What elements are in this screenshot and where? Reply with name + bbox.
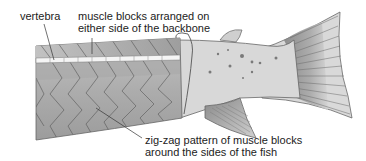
muscle-body <box>34 38 182 140</box>
label-muscle-blocks-line2: either side of the backbone <box>78 22 210 34</box>
label-muscle-blocks: muscle blocks arranged on either side of… <box>78 10 210 34</box>
label-zigzag-line2: around the sides of the fish <box>145 146 302 158</box>
label-vertebra: vertebra <box>20 10 60 22</box>
label-muscle-blocks-line1: muscle blocks arranged on <box>78 10 210 22</box>
label-zigzag-pattern: zig-zag pattern of muscle blocks around … <box>145 134 302 158</box>
dorsal-fin <box>220 30 242 42</box>
fish-diagram: vertebra muscle blocks arranged on eithe… <box>0 0 366 161</box>
label-vertebra-text: vertebra <box>20 10 60 22</box>
label-zigzag-line1: zig-zag pattern of muscle blocks <box>145 134 302 146</box>
